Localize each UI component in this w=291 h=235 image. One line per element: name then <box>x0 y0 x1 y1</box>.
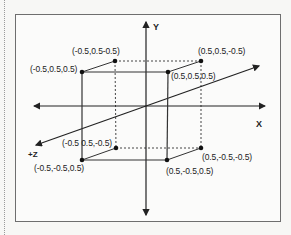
vertex-label-front-bottom-left: (-0.5,-0.5,0.5) <box>34 163 84 173</box>
x-axis-label: X <box>256 119 262 129</box>
vertex-label-back-top-left: (-0.5,0.5-0.5) <box>72 46 120 56</box>
z-axis-label: +Z <box>28 150 38 159</box>
vertex-label-front-top-left: (-0.5,0.5,0.5) <box>30 64 77 74</box>
vertex-label-back-bottom-right: (0.5,-0.5,-0.5) <box>202 152 252 162</box>
vertex-label-back-top-right: (0.5,0.5,-0.5) <box>198 46 245 56</box>
cube-diagram <box>0 0 291 235</box>
vertex-label-front-bottom-right: (0.5,-0.5,0.5) <box>166 166 213 176</box>
y-axis-label: Y <box>153 22 159 32</box>
vertex-label-back-bottom-left: (-0.5 0.5,-0.5) <box>62 138 112 148</box>
vertex-label-front-top-right: (0.5,0.5,0.5) <box>171 71 216 81</box>
